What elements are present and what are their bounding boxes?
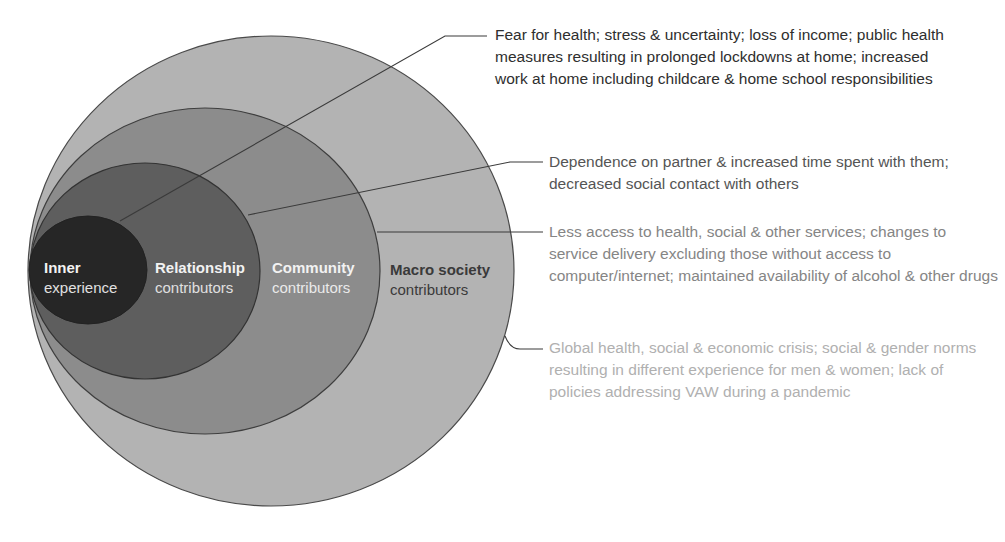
label-macro-subtitle: contributors (390, 280, 490, 300)
label-inner-title: Inner (44, 258, 117, 278)
label-community-title: Community (272, 258, 355, 278)
annotation-macro: Global health, social & economic crisis;… (549, 337, 994, 403)
label-macro-title: Macro society (390, 260, 490, 280)
annotation-community: Less access to health, social & other se… (549, 221, 999, 287)
annotation-inner: Fear for health; stress & uncertainty; l… (495, 24, 965, 90)
label-inner: Inner experience (44, 258, 117, 298)
label-relationship-title: Relationship (155, 258, 245, 278)
label-community: Community contributors (272, 258, 355, 298)
annotation-relationship: Dependence on partner & increased time s… (549, 151, 989, 195)
label-macro-society: Macro society contributors (390, 260, 490, 300)
label-inner-subtitle: experience (44, 278, 117, 298)
ecological-model-diagram: Inner experience Relationship contributo… (0, 0, 1005, 542)
label-relationship: Relationship contributors (155, 258, 245, 298)
leader-line-macro (505, 336, 543, 349)
label-relationship-subtitle: contributors (155, 278, 245, 298)
label-community-subtitle: contributors (272, 278, 355, 298)
